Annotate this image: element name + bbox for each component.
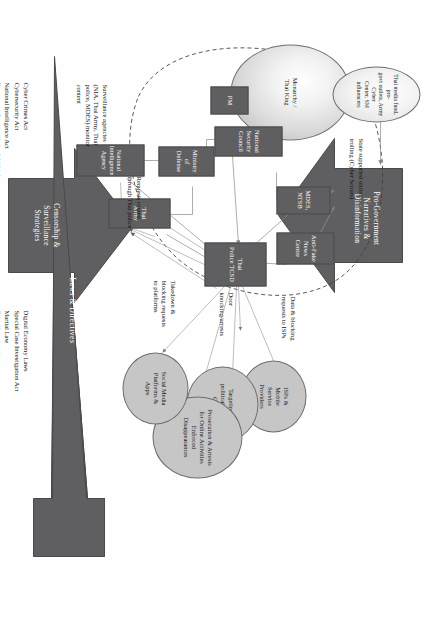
edge-label-requests-routed: Requests routed through Thai police <box>125 176 142 262</box>
edge-police-isps <box>242 286 278 372</box>
edge-label-takedown: Takedown & blocking requests to platform… <box>150 280 176 358</box>
actor-pm[interactable]: PM <box>210 86 248 114</box>
edge-label-data-blocking: Data & blocking requests to ISPs <box>279 296 296 382</box>
edge-label-surveillance-agencies: Surveillance agencies (NIA, Thai Army, T… <box>74 84 108 192</box>
actor-media-network: Thai media fund, pro- govt outlets, Army… <box>332 66 420 122</box>
laws-band-title: Laws & Directives <box>66 255 76 365</box>
actor-thai-police-tcsd[interactable]: Thai Police TCSD <box>204 242 266 286</box>
edge-mod-army <box>170 186 192 214</box>
pro-government-arrow-shape <box>278 138 402 292</box>
edge-police-door <box>238 286 240 330</box>
diagram-root: Pro-Government Narratives & Disinformati… <box>0 0 438 619</box>
actor-mdes-ntsb[interactable]: MDES, NTSB <box>276 186 330 214</box>
actor-anti-fake-news-centre[interactable]: Anti-Fake News Centre <box>276 232 334 264</box>
actor-national-security-council[interactable]: National Security Council <box>214 126 282 156</box>
laws-column-left: Cyber Crimes Act Cybersecurity Act Natio… <box>0 82 30 262</box>
censorship-arrow-label: Censorship & Surveillance Strategies <box>31 190 60 260</box>
edge-label-door-knocking: Door knocking/arrests <box>217 292 234 362</box>
target-social-media: Social Media Platforms & Apps <box>122 352 188 424</box>
figure-canvas: Pro-Government Narratives & Disinformati… <box>0 0 438 619</box>
laws-column-right: Digital Economy Laws Special Case Invest… <box>0 310 30 500</box>
actor-ministry-of-defense[interactable]: Ministry of Defense <box>158 146 214 176</box>
edge-label-state-trolling: State supported online trolling (Cyber S… <box>347 138 364 248</box>
